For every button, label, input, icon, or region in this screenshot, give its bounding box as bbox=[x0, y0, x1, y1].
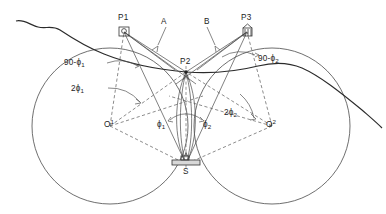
label-2phi2-text: 2ϕ bbox=[224, 108, 234, 117]
label-o1-base: O bbox=[104, 120, 111, 129]
label-phi1: ϕ1 bbox=[157, 121, 165, 129]
angle-arc-90-minus-phi1 bbox=[107, 61, 138, 66]
ray-o1-p1 bbox=[110, 32, 124, 126]
label-90-minus-phi2-text: 90-ϕ bbox=[258, 54, 275, 63]
label-2phi1-sub: 1 bbox=[81, 87, 85, 94]
label-o2: O2 bbox=[266, 121, 276, 129]
label-phi2: ϕ2 bbox=[203, 121, 211, 129]
label-o2-base: O bbox=[266, 120, 273, 129]
label-2phi1-text: 2ϕ bbox=[71, 84, 81, 93]
label-2phi2: 2ϕ2 bbox=[224, 109, 237, 117]
ray-o2-p3 bbox=[247, 32, 272, 126]
label-90-minus-phi1-sub: 1 bbox=[81, 61, 85, 68]
coastline-curve bbox=[16, 21, 382, 128]
label-90-minus-phi1: 90-ϕ1 bbox=[64, 59, 85, 67]
label-2phi2-sub: 2 bbox=[234, 111, 238, 118]
ray-o1-s bbox=[110, 126, 186, 164]
angle-arc-2phi2 bbox=[240, 94, 254, 118]
label-o2-superscript: 2 bbox=[273, 118, 277, 125]
label-b: B bbox=[204, 18, 210, 26]
ray-o1-p2 bbox=[110, 72, 186, 126]
label-90-minus-phi1-text: 90-ϕ bbox=[64, 58, 81, 67]
leader-line-a bbox=[158, 27, 166, 45]
label-90-minus-phi2-sub: 2 bbox=[275, 57, 279, 64]
label-phi2-sub: 2 bbox=[208, 123, 212, 130]
label-90-minus-phi2: 90-ϕ2 bbox=[258, 55, 279, 63]
angle-arc-90-minus-phi2 bbox=[222, 52, 255, 57]
label-phi1-sub: 1 bbox=[162, 123, 166, 130]
label-a: A bbox=[161, 18, 167, 26]
label-s: S bbox=[183, 168, 189, 176]
label-o1: O1 bbox=[104, 121, 114, 129]
arrow-locus-a bbox=[152, 46, 158, 52]
ray-o2-s bbox=[186, 126, 272, 164]
ray-o2-extension bbox=[169, 96, 272, 126]
node-dot-icon bbox=[184, 70, 188, 74]
ship-icon bbox=[172, 152, 200, 165]
diagram-canvas bbox=[0, 0, 386, 214]
label-p3: P3 bbox=[241, 14, 251, 22]
survey-geometry-diagram: P1 P2 P3 A B O1 O2 S 90-ϕ1 90-ϕ2 2ϕ1 2ϕ2… bbox=[0, 0, 386, 214]
angle-arc-2phi1 bbox=[108, 88, 140, 102]
leader-line-b bbox=[207, 27, 215, 45]
label-o1-superscript: 1 bbox=[111, 118, 115, 125]
label-2phi1: 2ϕ1 bbox=[71, 85, 84, 93]
label-p2: P2 bbox=[180, 58, 190, 66]
label-p1: P1 bbox=[118, 14, 128, 22]
vesica-arc-left bbox=[177, 72, 186, 164]
